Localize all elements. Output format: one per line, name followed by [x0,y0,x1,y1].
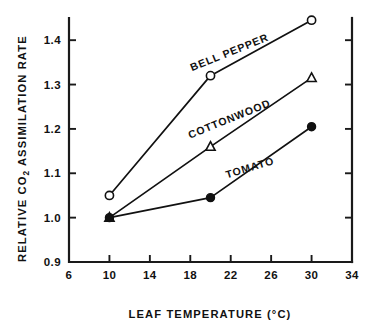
x-tick-label: 10 [103,269,117,281]
marker-tomato [308,123,316,131]
y-tick-label: 1.0 [44,212,61,224]
y-tick-label: 1.2 [44,123,61,135]
x-tick-label: 18 [183,269,197,281]
marker-bell-pepper [206,72,214,80]
marker-bell-pepper [105,191,113,199]
relative-co2-assimilation-rate-line-chart: 610141822263034 0.91.01.11.21.31.4 BELL … [0,0,374,328]
x-tick-label: 34 [345,269,359,281]
x-tick-label: 6 [66,269,73,281]
x-tick-label: 22 [224,269,238,281]
marker-tomato [207,194,215,202]
x-axis-title: LEAF TEMPERATURE (°C) [129,308,292,320]
y-tick-label: 1.1 [44,167,61,179]
y-tick-label: 0.9 [44,256,61,268]
y-tick-label: 1.3 [44,79,61,91]
chart-figure: 610141822263034 0.91.01.11.21.31.4 BELL … [0,0,374,328]
x-tick-label: 14 [143,269,157,281]
marker-bell-pepper [307,16,315,24]
marker-tomato [105,214,113,222]
y-tick-label: 1.4 [44,34,61,46]
x-tick-label: 26 [264,269,278,281]
x-tick-label: 30 [305,269,319,281]
